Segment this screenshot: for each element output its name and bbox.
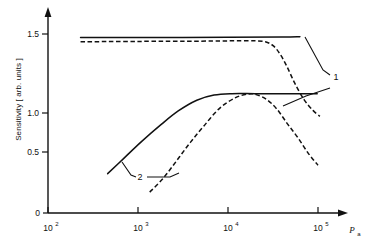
- x-tick-label-1e5-base: 10: [313, 223, 323, 233]
- y-axis-arrowhead: [45, 7, 52, 17]
- leader-line-2-dashed: [147, 173, 179, 177]
- leader-lines-label-1: [283, 37, 330, 106]
- x-tick-label-1e2-base: 10: [43, 223, 53, 233]
- chart-plot-area: 1.5 1.0 0.5 0 10 2 10 3 10 4 10 5: [0, 0, 373, 246]
- curve-1-solid: [81, 37, 300, 38]
- x-tick-label-1e5-exp: 5: [325, 221, 329, 227]
- leader-line-1-dashed: [283, 88, 330, 106]
- y-tick-label-1-5: 1.5: [27, 29, 39, 39]
- x-tick-label-1e4-exp: 4: [235, 221, 239, 227]
- y-tick-label-0-5: 0.5: [27, 147, 39, 157]
- x-axis-name-base: P: [348, 225, 355, 235]
- x-tick-marks: [48, 207, 318, 213]
- x-tick-label-1e5: 10 5: [313, 221, 329, 233]
- y-axis: [45, 7, 52, 213]
- x-axis: [48, 210, 348, 217]
- x-tick-label-1e2-exp: 2: [55, 221, 59, 227]
- curve-label-1: 1: [333, 72, 338, 82]
- x-tick-label-1e3: 10 3: [133, 221, 149, 233]
- x-axis-name: P a: [348, 225, 361, 237]
- y-tick-label-0: 0: [35, 208, 40, 218]
- curve-label-2: 2: [137, 172, 142, 182]
- x-axis-name-sub: a: [357, 231, 361, 237]
- y-tick-label-1-0: 1.0: [27, 108, 39, 118]
- y-tick-marks: [42, 34, 48, 213]
- x-axis-arrowhead: [338, 210, 348, 217]
- x-tick-label-1e4: 10 4: [223, 221, 239, 233]
- x-tick-label-1e3-exp: 3: [145, 221, 149, 227]
- x-tick-label-1e3-base: 10: [133, 223, 143, 233]
- x-tick-label-1e2: 10 2: [43, 221, 59, 233]
- x-tick-label-1e4-base: 10: [223, 223, 233, 233]
- curve-2-solid: [108, 94, 318, 174]
- figure-container: Sensitivity [ arb. units ] 1.5 1.0 0.5 0: [0, 0, 373, 246]
- curve-2-dashed: [150, 94, 318, 192]
- leader-line-2-solid: [122, 162, 136, 177]
- leader-line-1-solid: [305, 37, 330, 75]
